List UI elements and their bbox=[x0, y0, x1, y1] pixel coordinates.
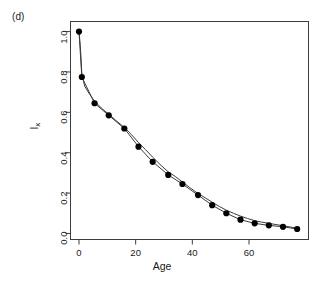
data-point bbox=[76, 28, 82, 34]
data-point bbox=[195, 192, 201, 198]
data-point bbox=[106, 112, 112, 118]
x-tick-label: 40 bbox=[187, 247, 198, 258]
y-axis-title-text: l bbox=[28, 127, 40, 129]
data-point bbox=[179, 181, 185, 187]
y-tick-label: 0.0 bbox=[57, 232, 68, 250]
data-point bbox=[165, 172, 171, 178]
data-point bbox=[294, 226, 300, 232]
data-point bbox=[135, 144, 141, 150]
y-tick-label: 0.2 bbox=[57, 192, 68, 210]
y-tick-label: 0.4 bbox=[57, 151, 68, 169]
figure-panel-d: (d) 0204060 0.00.20.40.60.81.0 Age lx bbox=[0, 0, 324, 284]
data-point bbox=[252, 220, 258, 226]
survivorship-curve-plot bbox=[0, 0, 324, 284]
data-point bbox=[91, 100, 97, 106]
data-point bbox=[280, 224, 286, 230]
y-tick-label: 0.6 bbox=[57, 111, 68, 129]
data-point bbox=[79, 74, 85, 80]
x-tick-label: 20 bbox=[130, 247, 141, 258]
x-axis-title: Age bbox=[0, 260, 324, 272]
data-point bbox=[223, 210, 229, 216]
data-point bbox=[209, 202, 215, 208]
data-point bbox=[237, 217, 243, 223]
x-tick-label: 0 bbox=[76, 247, 81, 258]
plot-background bbox=[0, 0, 324, 284]
data-point bbox=[121, 125, 127, 131]
x-tick-label: 60 bbox=[244, 247, 255, 258]
data-point bbox=[266, 222, 272, 228]
y-axis-title: lx bbox=[28, 106, 40, 146]
data-point bbox=[150, 159, 156, 165]
y-tick-label: 1.0 bbox=[57, 30, 68, 48]
panel-label: (d) bbox=[12, 11, 25, 22]
y-tick-label: 0.8 bbox=[57, 70, 68, 88]
y-axis-title-subscript: x bbox=[33, 123, 42, 127]
